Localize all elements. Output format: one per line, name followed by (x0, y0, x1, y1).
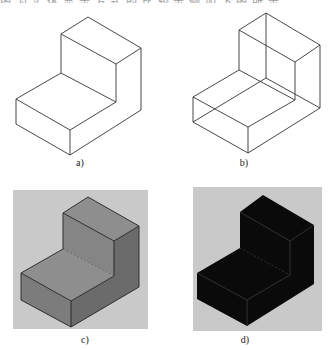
figure-canvas (0, 0, 333, 350)
panel-c-label: c) (81, 334, 89, 345)
panel-c-shaded-gray (13, 190, 148, 329)
panel-d-shaded-black (193, 187, 322, 331)
panel-a-wireframe (16, 17, 141, 155)
panel-a-label: a) (76, 157, 84, 168)
panel-b-label: b) (240, 157, 248, 168)
panel-b-wireframe (193, 13, 320, 153)
panel-d-label: d) (241, 334, 249, 345)
